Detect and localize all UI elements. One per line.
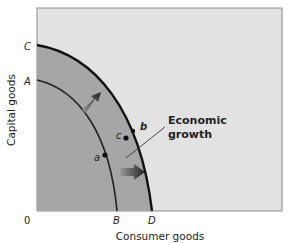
ppf-diagram: a b c Economic growth C A B D 0 Consumer… [0, 0, 289, 243]
intercept-a-label: A [23, 76, 31, 87]
point-c-marker [123, 135, 128, 140]
intercept-d-label: D [148, 215, 156, 226]
point-b-label: b [140, 121, 147, 132]
y-axis-title: Capital goods [5, 74, 17, 146]
point-c-label: c [116, 130, 122, 141]
point-a-marker [102, 152, 107, 157]
annotation-line2: growth [168, 128, 212, 141]
origin-label: 0 [24, 215, 30, 226]
annotation-line1: Economic [168, 114, 227, 127]
x-axis-title: Consumer goods [116, 230, 205, 242]
point-b-marker [131, 129, 135, 133]
intercept-b-label: B [113, 215, 120, 226]
intercept-c-label: C [24, 41, 31, 52]
point-a-label: a [94, 152, 100, 163]
